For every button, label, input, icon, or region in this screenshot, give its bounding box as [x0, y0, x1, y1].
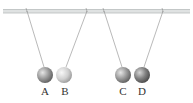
label-b: B: [61, 86, 68, 97]
ball-a: [37, 67, 53, 83]
pendulum-diagram: [0, 0, 193, 103]
label-a: A: [41, 86, 49, 97]
thread-a: [27, 11, 44, 67]
ball-b: [56, 67, 72, 83]
ball-c: [115, 67, 131, 83]
ball-d: [134, 67, 150, 83]
support-rod: [3, 10, 190, 14]
threads: [26, 8, 163, 67]
label-d: D: [138, 86, 146, 97]
thread-b: [66, 11, 87, 67]
label-c: C: [119, 86, 126, 97]
thread-d: [144, 11, 163, 67]
thread-c: [104, 11, 122, 67]
